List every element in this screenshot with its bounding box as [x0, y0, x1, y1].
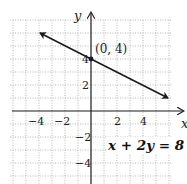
x-tick-labels: −4 −2 2 4: [28, 115, 147, 128]
point-y-intercept: [89, 57, 94, 62]
equation-label: x + 2y = 8: [107, 137, 185, 153]
point-label: (0, 4): [95, 42, 127, 56]
x-tick-label: −2: [54, 115, 70, 128]
y-axis-label: y: [73, 8, 82, 23]
y-tick-label: −4: [75, 157, 91, 170]
x-tick-label: 4: [140, 115, 147, 128]
x-tick-label: 2: [114, 115, 121, 128]
line-x-plus-2y-equals-8: [91, 59, 168, 98]
coordinate-plane: y x −4 −2 2 4 4 2 −2 −4 (0, 4) x + 2y = …: [0, 0, 187, 184]
x-tick-label: −4: [28, 115, 44, 128]
y-tick-label: 2: [82, 79, 89, 92]
y-tick-label: −2: [75, 131, 91, 144]
x-axis-label: x: [181, 116, 187, 131]
